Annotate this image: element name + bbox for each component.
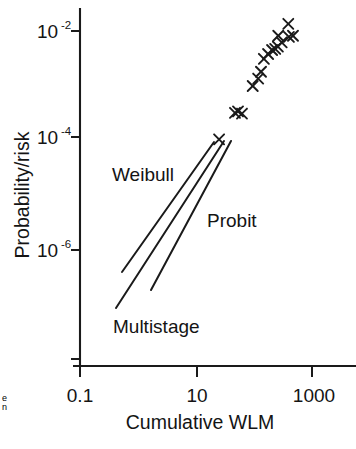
x-tick-label-0-1: 0.1 (67, 385, 93, 406)
x-ticks-group (80, 366, 312, 377)
y-tick-label-1e-2-mantissa: 10 (37, 21, 58, 42)
weibull-label: Weibull (112, 164, 174, 185)
data-point-marker (283, 19, 293, 29)
axes-group (73, 8, 356, 367)
y-tick-label-1e-4-mantissa: 10 (37, 127, 58, 148)
x-tick-label-10: 10 (186, 385, 207, 406)
y-axis-title: Probability/risk (11, 131, 33, 258)
curve-labels-group: Weibull Probit Multistage (112, 164, 257, 337)
multistage-label: Multistage (113, 316, 200, 337)
x-tick-label-1000: 1000 (293, 385, 335, 406)
data-points-group (214, 19, 298, 144)
data-point-marker (248, 81, 258, 91)
probit-label: Probit (207, 210, 257, 231)
y-tick-label-1e-6-mantissa: 10 (37, 240, 58, 261)
y-tick-label-1e-4-exponent: -4 (61, 125, 72, 137)
y-tick-labels-group: 10 -2 10 -4 10 -6 (37, 19, 72, 261)
weibull-line (122, 142, 214, 272)
y-tick-label-1e-6-exponent: -6 (61, 238, 71, 250)
page-edge-artifact-bottom: n (2, 403, 7, 412)
y-tick-label-1e-2-exponent: -2 (61, 19, 71, 31)
page-edge-artifact: e n (2, 394, 7, 412)
x-tick-labels-group: 0.1 10 1000 (67, 385, 335, 406)
data-point-marker (237, 109, 247, 119)
figure-container: 10 -2 10 -4 10 -6 0.1 10 1000 Probabilit… (0, 0, 356, 449)
y-ticks-group (71, 31, 80, 359)
data-point-marker (214, 134, 224, 144)
chart-canvas: 10 -2 10 -4 10 -6 0.1 10 1000 Probabilit… (0, 0, 356, 449)
x-axis-title: Cumulative WLM (126, 411, 274, 433)
